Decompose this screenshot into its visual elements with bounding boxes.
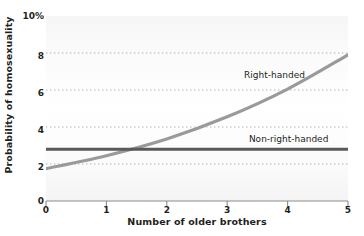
x-tick-label-2: 2 (157, 205, 177, 215)
plot-svg (46, 16, 348, 201)
x-tick-label-0: 0 (36, 205, 56, 215)
series-label-right-handed: Right-handed (244, 70, 305, 80)
y-tick-label-6: 6 (4, 88, 44, 98)
chart-figure: Probability of homosexuality 10% 8 6 4 2… (0, 0, 364, 236)
x-tick-label-1: 1 (96, 205, 116, 215)
x-axis (40, 196, 356, 212)
y-tick-label-10: 10% (4, 11, 44, 21)
x-axis-title: Number of older brothers (46, 216, 348, 227)
plot-area: Right-handed Non-right-handed (46, 16, 348, 201)
y-tick-label-4: 4 (4, 125, 44, 135)
x-tick-label-4: 4 (278, 205, 298, 215)
y-axis-title: Probability of homosexuality (0, 0, 18, 213)
x-tick-label-3: 3 (217, 205, 237, 215)
y-tick-label-2: 2 (4, 162, 44, 172)
x-tick-label-5: 5 (338, 205, 358, 215)
y-tick-label-8: 8 (4, 51, 44, 61)
series-label-non-right-handed: Non-right-handed (249, 134, 328, 144)
